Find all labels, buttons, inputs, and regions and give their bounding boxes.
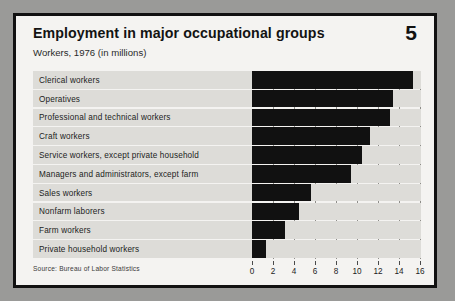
category-label: Operatives — [39, 94, 80, 103]
axis-tick — [399, 261, 400, 265]
axis-tick-label: 14 — [394, 267, 403, 276]
axis-tick-label: 2 — [271, 267, 276, 276]
bar — [252, 90, 393, 108]
page-title: Employment in major occupational groups — [33, 25, 325, 41]
page-number: 5 — [405, 21, 417, 45]
category-label: Professional and technical workers — [39, 113, 171, 122]
chart-row: Farm workers — [33, 221, 421, 239]
axis-tick-label: 12 — [373, 267, 382, 276]
axis-tick — [315, 261, 316, 265]
category-label: Private household workers — [39, 244, 139, 253]
axis-tick-label: 8 — [334, 267, 339, 276]
axis-tick — [357, 261, 358, 265]
bar — [252, 221, 285, 239]
chart-row: Service workers, except private househol… — [33, 146, 421, 164]
chart-row: Managers and administrators, except farm — [33, 165, 421, 183]
source-note: Source: Bureau of Labor Statistics — [33, 265, 140, 272]
axis-tick-label: 10 — [352, 267, 361, 276]
chart-row: Sales workers — [33, 184, 421, 202]
category-label: Nonfarm laborers — [39, 207, 105, 216]
axis-tick — [420, 261, 421, 265]
chart-row: Private household workers — [33, 240, 421, 258]
bar-chart-plot: Clerical workersOperativesProfessional a… — [33, 71, 421, 261]
category-label: Sales workers — [39, 188, 92, 197]
bar — [252, 71, 413, 89]
category-label: Farm workers — [39, 226, 91, 235]
bar — [252, 165, 351, 183]
bar — [252, 240, 266, 258]
category-label: Craft workers — [39, 132, 90, 141]
category-label: Managers and administrators, except farm — [39, 169, 198, 178]
axis-tick-label: 0 — [250, 267, 255, 276]
axis-tick — [252, 261, 253, 265]
axis-tick — [294, 261, 295, 265]
chart-row: Nonfarm laborers — [33, 203, 421, 221]
category-label: Service workers, except private househol… — [39, 150, 199, 159]
bar — [252, 146, 362, 164]
category-label: Clerical workers — [39, 75, 100, 84]
axis-tick-label: 6 — [313, 267, 318, 276]
bar — [252, 109, 390, 127]
chart-page: Employment in major occupational groups … — [13, 13, 437, 288]
page-inner: Employment in major occupational groups … — [16, 16, 434, 285]
bar — [252, 184, 311, 202]
axis-tick-label: 16 — [415, 267, 424, 276]
chart-subtitle: Workers, 1976 (in millions) — [33, 47, 146, 58]
axis-tick — [273, 261, 274, 265]
axis-tick — [378, 261, 379, 265]
axis-tick — [336, 261, 337, 265]
bar — [252, 127, 370, 145]
bar — [252, 203, 299, 221]
axis-tick-label: 4 — [292, 267, 297, 276]
